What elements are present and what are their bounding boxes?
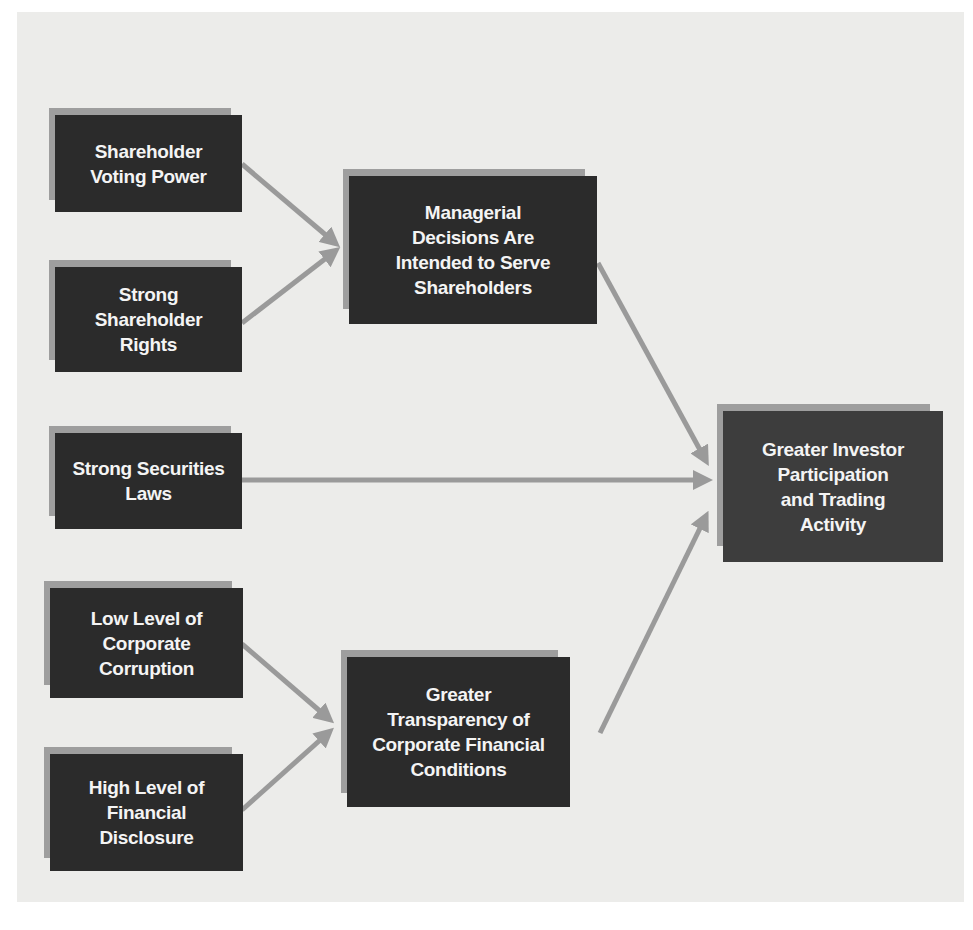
node-strong-securities-laws: Strong Securities Laws <box>55 433 242 529</box>
node-box: Strong Shareholder Rights <box>55 267 242 372</box>
node-high-financial-disclosure: High Level of Financial Disclosure <box>50 754 243 871</box>
node-box: Strong Securities Laws <box>55 433 242 529</box>
node-strong-shareholder-rights: Strong Shareholder Rights <box>55 267 242 372</box>
node-low-corporate-corruption: Low Level of Corporate Corruption <box>50 588 243 698</box>
arrow-disclosure-to-transparency <box>242 733 328 810</box>
arrow-voting-to-managerial <box>242 164 334 242</box>
node-label: High Level of Financial Disclosure <box>83 775 210 850</box>
node-box: Greater Investor Participation and Tradi… <box>723 411 943 562</box>
node-box: Greater Transparency of Corporate Financ… <box>347 657 570 807</box>
node-label: Shareholder Voting Power <box>84 139 212 189</box>
arrow-rights-to-managerial <box>242 252 334 323</box>
node-label: Strong Shareholder Rights <box>89 282 209 357</box>
node-managerial-decisions: Managerial Decisions Are Intended to Ser… <box>349 176 597 324</box>
arrow-transparency-to-investor <box>600 518 705 733</box>
arrow-managerial-to-investor <box>598 263 705 459</box>
node-label: Strong Securities Laws <box>66 456 230 506</box>
arrow-corruption-to-transparency <box>242 644 328 718</box>
node-greater-investor-participation: Greater Investor Participation and Tradi… <box>723 411 943 562</box>
node-box: Managerial Decisions Are Intended to Ser… <box>349 176 597 324</box>
node-box: Shareholder Voting Power <box>55 115 242 212</box>
node-greater-transparency: Greater Transparency of Corporate Financ… <box>347 657 570 807</box>
node-label: Greater Transparency of Corporate Financ… <box>366 682 551 782</box>
node-box: Low Level of Corporate Corruption <box>50 588 243 698</box>
node-label: Managerial Decisions Are Intended to Ser… <box>390 200 556 300</box>
node-label: Low Level of Corporate Corruption <box>85 606 208 681</box>
node-shareholder-voting-power: Shareholder Voting Power <box>55 115 242 212</box>
node-label: Greater Investor Participation and Tradi… <box>756 437 910 537</box>
node-box: High Level of Financial Disclosure <box>50 754 243 871</box>
